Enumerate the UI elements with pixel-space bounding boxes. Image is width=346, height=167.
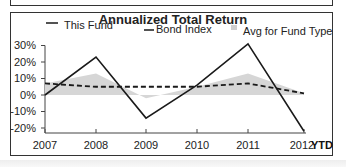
plot-area [0, 0, 346, 167]
